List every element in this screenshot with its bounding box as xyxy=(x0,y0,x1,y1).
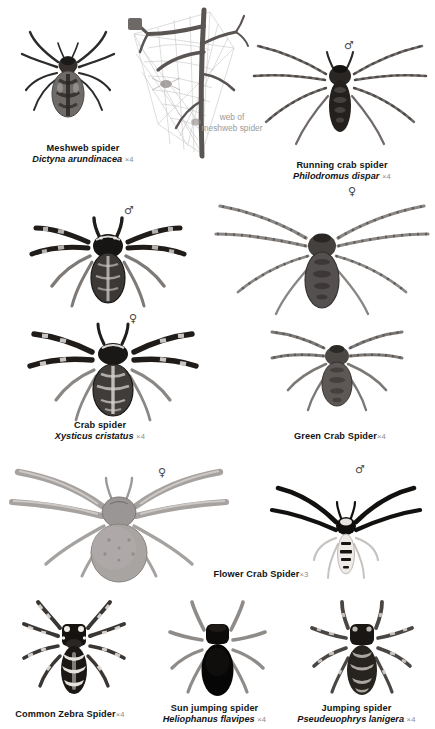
figure-sun-jumping-spider xyxy=(160,598,275,698)
scientific-name-text: Pseudeuophrys lanigera xyxy=(297,714,404,724)
magnification-running-crab-spider: ×4 xyxy=(382,172,391,181)
web-annotation: web of meshweb spider xyxy=(186,112,278,135)
sex-symbol-male-flower-crab-spider: ♂ xyxy=(355,464,365,475)
sex-symbol-female-green-crab-spider-upper: ♀ xyxy=(348,186,356,197)
common-name-running-crab-spider: Running crab spider xyxy=(262,160,422,171)
caption-green-crab-spider: Green Crab Spider×4 xyxy=(265,425,415,444)
caption-common-zebra-spider: Common Zebra Spider×4 xyxy=(0,703,140,722)
figure-green-crab-spider xyxy=(252,318,422,418)
scientific-name-text: Dictyna arundinacea xyxy=(32,154,122,164)
caption-meshweb-spider: Meshweb spider Dictyna arundinacea ×4 xyxy=(0,143,166,165)
figure-crab-spider xyxy=(18,318,208,428)
common-name-green-crab-spider: Green Crab Spider xyxy=(294,431,377,441)
figure-running-crab-spider xyxy=(250,28,430,158)
magnification-meshweb-spider: ×4 xyxy=(125,155,134,164)
web-annotation-line-2: meshweb spider xyxy=(186,123,278,134)
magnification-sun-jumping-spider: ×4 xyxy=(257,715,266,724)
caption-flower-crab-spider: Flower Crab Spider×3 xyxy=(186,563,336,582)
scientific-name-text: Xysticus cristatus xyxy=(55,431,134,441)
magnification-green-crab-spider: ×4 xyxy=(377,432,386,441)
common-name-sun-jumping-spider: Sun jumping spider xyxy=(132,703,297,714)
common-name-meshweb-spider: Meshweb spider xyxy=(0,143,166,154)
sex-symbol-female-flower-crab-spider: ♀ xyxy=(158,467,166,478)
common-name-jumping-spider: Jumping spider xyxy=(278,703,435,714)
spider-identification-plate: web of meshweb spider Meshweb spider Dic… xyxy=(0,0,435,729)
common-name-flower-crab-spider: Flower Crab Spider xyxy=(213,569,299,579)
figure-jumping-spider xyxy=(300,598,425,698)
caption-crab-spider: Crab spider Xysticus cristatus ×4 xyxy=(20,420,180,442)
figure-green-crab-spider-upper xyxy=(210,196,435,321)
scientific-name-jumping-spider: Pseudeuophrys lanigera ×4 xyxy=(278,714,435,725)
magnification-jumping-spider: ×4 xyxy=(407,715,416,724)
scientific-name-text: Heliophanus flavipes xyxy=(163,714,255,724)
scientific-name-text: Philodromus dispar xyxy=(293,171,379,181)
sex-symbol-female-crab-spider: ♀ xyxy=(129,313,137,324)
figure-flower-crab-spider xyxy=(6,460,226,580)
magnification-common-zebra-spider: ×4 xyxy=(116,710,125,719)
caption-running-crab-spider: Running crab spider Philodromus dispar ×… xyxy=(262,160,422,182)
scientific-name-meshweb-spider: Dictyna arundinacea ×4 xyxy=(0,154,166,165)
figure-common-zebra-spider xyxy=(14,598,134,698)
common-name-common-zebra-spider: Common Zebra Spider xyxy=(15,709,115,719)
figure-meshweb-spider xyxy=(14,18,124,138)
magnification-crab-spider: ×4 xyxy=(136,432,145,441)
web-annotation-line-1: web of xyxy=(186,112,278,123)
scientific-name-running-crab-spider: Philodromus dispar ×4 xyxy=(262,171,422,182)
figure-crab-spider-male xyxy=(18,206,198,316)
sex-symbol-male-running-crab-spider: ♂ xyxy=(344,40,354,51)
magnification-flower-crab-spider: ×3 xyxy=(299,570,308,579)
caption-jumping-spider: Jumping spider Pseudeuophrys lanigera ×4 xyxy=(278,703,435,725)
sex-symbol-male-crab-spider: ♂ xyxy=(124,205,134,216)
common-name-crab-spider: Crab spider xyxy=(20,420,180,431)
scientific-name-crab-spider: Xysticus cristatus ×4 xyxy=(20,431,180,442)
caption-sun-jumping-spider: Sun jumping spider Heliophanus flavipes … xyxy=(132,703,297,725)
scientific-name-sun-jumping-spider: Heliophanus flavipes ×4 xyxy=(132,714,297,725)
